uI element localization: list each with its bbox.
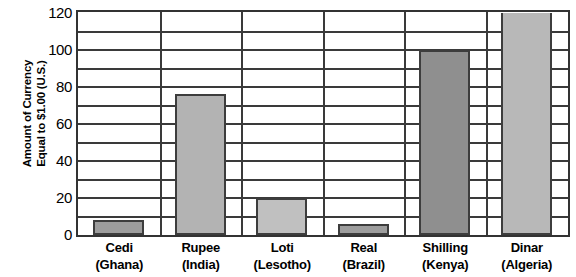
y-tick-label: 80: [30, 79, 72, 94]
bar: [419, 50, 470, 235]
y-tick-label: 60: [30, 116, 72, 131]
bar: [256, 198, 307, 235]
currency-name: Dinar: [511, 240, 543, 255]
bar-chart: Amount of Currency Equal to $1.00 (U.S.)…: [0, 0, 576, 277]
plot-area: [76, 10, 570, 237]
bars-layer: [78, 12, 568, 235]
country-name: (Lesotho): [242, 257, 324, 274]
y-tick-label: 100: [30, 42, 72, 57]
currency-name: Loti: [271, 240, 294, 255]
currency-name: Shilling: [423, 240, 468, 255]
country-name: (India): [160, 257, 242, 274]
country-name: (Ghana): [79, 257, 161, 274]
currency-name: Real: [350, 240, 377, 255]
y-tick-label: 20: [30, 190, 72, 205]
x-category-label: Rupee(India): [160, 240, 242, 273]
y-tick-label: 40: [30, 153, 72, 168]
bar: [93, 220, 144, 235]
x-category-label: Cedi(Ghana): [79, 240, 161, 273]
currency-name: Cedi: [106, 240, 133, 255]
country-name: (Kenya): [405, 257, 487, 274]
bar: [175, 94, 226, 235]
x-axis-category-labels: Cedi(Ghana)Rupee(India)Loti(Lesotho)Real…: [76, 240, 570, 277]
country-name: (Brazil): [323, 257, 405, 274]
x-category-label: Real(Brazil): [323, 240, 405, 273]
country-name: (Algeria): [486, 257, 568, 274]
y-tick-label: 120: [30, 5, 72, 20]
x-category-label: Loti(Lesotho): [242, 240, 324, 273]
currency-name: Rupee: [181, 240, 220, 255]
y-tick-label: 0: [30, 227, 72, 242]
bar: [501, 13, 552, 235]
x-category-label: Dinar(Algeria): [486, 240, 568, 273]
x-category-label: Shilling(Kenya): [405, 240, 487, 273]
y-axis-tick-labels: 120100806040200: [30, 0, 72, 277]
bar: [338, 224, 389, 235]
